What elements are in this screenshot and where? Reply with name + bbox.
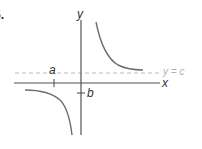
- x-axis-label: x: [162, 77, 168, 89]
- curve-lower-left: [25, 90, 72, 135]
- curve-upper-right: [96, 22, 143, 70]
- y-axis-label: y: [77, 8, 83, 20]
- figure-number: 5.: [0, 9, 4, 21]
- asymptote-label: y = c: [163, 67, 184, 77]
- label-a: a: [49, 64, 56, 76]
- label-b: b: [87, 87, 94, 99]
